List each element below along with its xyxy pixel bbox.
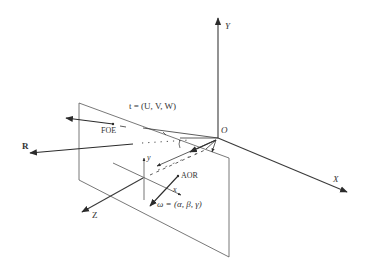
rotation-label: ω = (α, β, γ) (157, 200, 202, 209)
origin-label: O (221, 126, 228, 135)
aor-label: AOR (181, 172, 198, 180)
aor-point (177, 175, 179, 177)
coordinate-diagram (0, 0, 367, 272)
z-axis-label: Z (92, 211, 98, 220)
r-dotted (142, 140, 190, 143)
y-axis-label: Y (225, 22, 230, 31)
foe-label: FOE (101, 127, 116, 135)
translation-label: t = (U, V, W) (129, 102, 176, 111)
x-axis (218, 138, 347, 192)
dashed-projection-2 (158, 152, 200, 170)
image-y-label: y (147, 154, 151, 162)
r-vector (30, 144, 133, 153)
x-axis-label: X (333, 175, 339, 184)
foe-point (112, 123, 114, 125)
foe-dash (120, 126, 126, 127)
small-angle-mark (179, 140, 180, 148)
translation-vector (66, 118, 113, 124)
z-axis (82, 178, 143, 212)
image-x-label: x (173, 186, 177, 194)
origin-ray-a (157, 140, 216, 166)
image-x-axis (113, 163, 181, 195)
t-ray (143, 128, 218, 138)
r-label: R (22, 142, 29, 151)
